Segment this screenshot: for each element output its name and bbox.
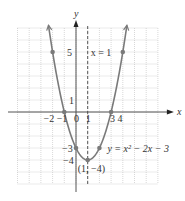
data-point — [85, 158, 90, 163]
y-axis-arrow-icon — [74, 20, 79, 27]
y-tick-label: 5 — [67, 47, 72, 58]
plot-canvas: xy x = 1 51−2 −1013 4−3−4(1, −4)y = x² −… — [0, 0, 185, 201]
x-tick-label-zero: 0 — [74, 113, 79, 124]
y-tick-label: −4 — [63, 155, 74, 166]
x-tick-label-neg: −2 −1 — [44, 113, 68, 124]
y-tick-label: 1 — [69, 95, 74, 106]
y-axis-label: y — [73, 8, 79, 19]
x-axis-label: x — [176, 106, 182, 117]
data-point — [50, 50, 55, 55]
symmetry-label: x = 1 — [91, 47, 112, 58]
data-point — [97, 146, 102, 151]
x-axis-arrow-icon — [167, 110, 174, 115]
y-tick-label: −3 — [62, 143, 73, 154]
data-point — [74, 146, 79, 151]
parabola-graph: xy x = 1 51−2 −1013 4−3−4(1, −4)y = x² −… — [0, 0, 185, 201]
data-point — [121, 50, 126, 55]
x-tick-label-pos: 3 4 — [110, 113, 123, 124]
equation-label: y = x² − 2x − 3 — [106, 143, 169, 154]
vertex-label: (1, −4) — [78, 163, 105, 175]
x-tick-label-one: 1 — [86, 113, 91, 124]
